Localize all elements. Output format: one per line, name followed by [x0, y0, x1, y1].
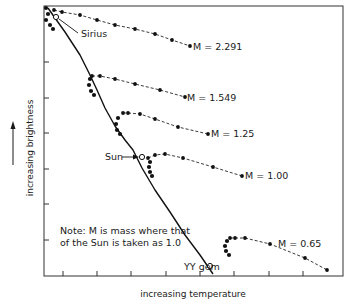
track-point [121, 111, 125, 115]
track-point [98, 74, 102, 78]
arrow-head-icon [11, 121, 16, 129]
loop-point [44, 6, 48, 10]
track-point [133, 27, 137, 31]
track-point [325, 268, 329, 272]
label-yy-gem: YY gem [183, 261, 220, 272]
track-point [240, 174, 244, 178]
loop-point [148, 170, 152, 174]
track-dashed-line [54, 10, 190, 46]
track-point [153, 32, 157, 36]
track-100 [146, 152, 244, 178]
loop-point [148, 160, 152, 164]
loop-point [51, 27, 55, 31]
track-dashed-line [148, 154, 242, 176]
note-line-2: of the Sun is taken as 1.0 [60, 237, 181, 248]
track-point [206, 132, 210, 136]
track-point [113, 23, 117, 27]
loop-point [92, 93, 96, 97]
loop-point [88, 77, 92, 81]
loop-point [224, 249, 228, 253]
label-m1549: M = 1.549 [187, 92, 236, 103]
track-1549 [87, 74, 187, 99]
loop-point [150, 174, 154, 178]
track-2291 [44, 6, 192, 48]
track-125 [114, 111, 210, 136]
track-point [176, 125, 180, 129]
loop-point [89, 89, 93, 93]
loop-point [114, 122, 118, 126]
label-m100: M = 1.00 [245, 170, 288, 181]
loop-point [147, 165, 151, 169]
label-sirius: Sirius [81, 28, 107, 39]
track-point [138, 112, 142, 116]
track-point [163, 152, 167, 156]
track-point [153, 153, 157, 157]
track-point [52, 8, 56, 12]
loop-point [48, 23, 52, 27]
track-point [228, 236, 232, 240]
note-line-1: Note: M is mass where that [60, 225, 190, 236]
loop-point [223, 244, 227, 248]
label-m125: M = 1.25 [211, 128, 254, 139]
track-point [303, 256, 307, 260]
loop-point [87, 83, 91, 87]
track-point [211, 165, 215, 169]
x-axis-label: increasing temperature [140, 289, 246, 299]
label-m2291: M = 2.291 [193, 41, 242, 52]
track-point [60, 10, 64, 14]
open-star-marker [53, 14, 58, 19]
track-dashed-line [92, 76, 185, 97]
track-point [146, 156, 150, 160]
track-point [153, 117, 157, 121]
loop-point [46, 12, 50, 16]
track-point [181, 156, 185, 160]
y-axis-label: increasing brightness [25, 99, 35, 196]
loop-point [118, 132, 122, 136]
track-point [133, 82, 137, 86]
track-point [126, 111, 130, 115]
track-point [78, 13, 82, 17]
hr-diagram: increasing brightness increasing tempera… [0, 0, 346, 305]
track-point [170, 38, 174, 42]
track-point [268, 242, 272, 246]
loop-point [115, 128, 119, 132]
open-star-marker [139, 154, 144, 159]
loop-point [227, 253, 231, 257]
loop-point [44, 18, 48, 22]
track-point [113, 77, 117, 81]
sirius-pointer [59, 19, 78, 33]
track-point [95, 18, 99, 22]
loop-point [116, 116, 120, 120]
track-point [188, 44, 192, 48]
track-point [243, 236, 247, 240]
track-dashed-line [123, 113, 208, 134]
track-point [233, 236, 237, 240]
label-m065: M = 0.65 [278, 238, 321, 249]
loop-point [225, 239, 229, 243]
label-sun: Sun [105, 151, 123, 162]
track-point [158, 88, 162, 92]
